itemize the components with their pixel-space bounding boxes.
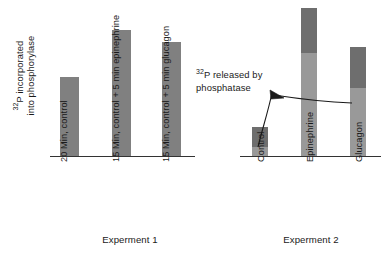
- tick-label-exp1-control: 20 Min, control: [59, 100, 70, 162]
- tick-label-exp1-glucagon: 15 Min, control + 5 min glucagon: [161, 26, 172, 162]
- bar-segment-released: [350, 47, 366, 88]
- y-axis-label-superscript: 32: [12, 102, 19, 110]
- tick-label-exp1-epinephrine: 15 Min, control + 5 min epinephrine: [111, 15, 122, 162]
- tick-label-exp2-control: Control: [256, 132, 267, 162]
- y-axis-label-line1: P incorporated: [15, 41, 25, 103]
- y-axis-label: 32P incorporatedinto phosphorylase: [10, 6, 37, 146]
- tick-label-exp2-epinephrine: Epinephrine: [305, 112, 316, 162]
- caption-experiment-1: Experment 1: [78, 234, 182, 245]
- chart-figure: 32P incorporatedinto phosphorylase 20 Mi…: [0, 0, 382, 265]
- panel-experiment-1: [50, 0, 198, 158]
- bar-segment-released: [301, 8, 317, 53]
- tick-label-exp2-glucagon: Glucagon: [354, 122, 365, 162]
- annotation-line1: P released by: [204, 69, 262, 80]
- annotation-superscript: 32: [196, 68, 204, 75]
- caption-experiment-2: Experment 2: [256, 234, 366, 245]
- baseline-experiment-1: [50, 156, 195, 157]
- y-axis-label-line2: into phosphorylase: [26, 36, 36, 116]
- annotation-line2: phosphatase: [196, 82, 251, 93]
- annotation-phosphatase-release: 32P released byphosphatase: [196, 66, 291, 94]
